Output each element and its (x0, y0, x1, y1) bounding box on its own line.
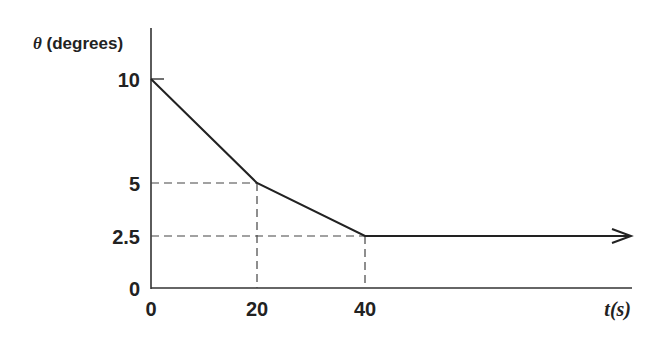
guide-lines (151, 183, 365, 288)
y-axis-label: θ (degrees) (33, 34, 123, 53)
x-tick-label-0: 0 (145, 298, 156, 320)
x-tick-label-40: 40 (354, 298, 376, 320)
y-tick-label-5: 5 (129, 173, 140, 195)
y-tick-label-0: 0 (129, 278, 140, 300)
x-tick-label-20: 20 (246, 298, 268, 320)
y-tick-label-10: 10 (118, 69, 140, 91)
chart: θ (degrees) 10 5 2.5 0 0 20 40 t(s) (0, 0, 663, 343)
x-axis-label: t(s) (604, 298, 631, 321)
theta-line (151, 79, 630, 236)
y-tick-label-2.5: 2.5 (112, 226, 140, 248)
